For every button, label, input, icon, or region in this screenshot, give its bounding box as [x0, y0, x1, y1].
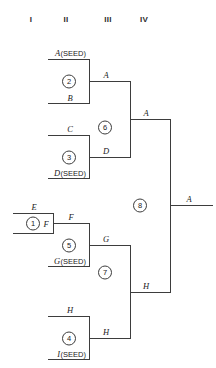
match-4-top-entry-label: H	[66, 305, 74, 315]
match-7-group: 7 H	[99, 246, 172, 339]
match-1-number: 1	[31, 219, 35, 228]
match-4-group: 4 H I(SEED) H	[48, 305, 131, 360]
match-3-bottom-entry-label: D(SEED)	[53, 168, 87, 178]
match-6-winner-label: A	[142, 108, 149, 118]
round-header-ii: II	[63, 15, 68, 24]
champion-label: A	[185, 194, 192, 204]
match-3-number: 3	[67, 153, 71, 162]
match-3-top-entry-label: C	[67, 124, 73, 134]
match-2-group: 2 A(SEED) B A	[48, 48, 131, 104]
match-5-number: 5	[67, 241, 71, 250]
match-8-group: 8 A	[134, 120, 214, 293]
match-4-winner-label: H	[102, 327, 110, 337]
tournament-bracket-figure: I II III IV 2 A(SEED) B A 3 C D(SEED) D	[0, 0, 216, 368]
match-1-group: 1 E F F	[13, 202, 90, 234]
bracket-canvas: I II III IV 2 A(SEED) B A 3 C D(SEED) D	[0, 0, 216, 368]
match-4-bottom-entry-label: I(SEED)	[56, 349, 86, 359]
match-1-top-entry-label: E	[30, 202, 37, 212]
match-3-group: 3 C D(SEED) D	[48, 124, 131, 179]
match-4-number: 4	[67, 334, 71, 343]
match-5-group: 5 G(SEED) G	[48, 224, 131, 267]
round-header-i: I	[30, 15, 33, 24]
match-3-winner-label: D	[102, 146, 110, 156]
round-header-iii: III	[104, 15, 112, 24]
match-5-winner-label: G	[103, 234, 109, 244]
match-1-winner-label: F	[67, 212, 74, 222]
match-2-bottom-entry-label: B	[67, 93, 72, 103]
match-7-number: 7	[103, 268, 107, 277]
match-2-top-entry-label: A(SEED)	[54, 48, 87, 58]
match-1-bottom-entry-label: F	[42, 219, 49, 229]
match-6-number: 6	[103, 123, 107, 132]
match-8-number: 8	[138, 201, 142, 210]
match-6-group: 6 A	[99, 82, 172, 158]
match-2-number: 2	[67, 77, 71, 86]
match-7-winner-label: H	[142, 281, 150, 291]
match-2-winner-label: A	[102, 70, 109, 80]
round-header-iv: IV	[140, 15, 149, 24]
match-5-bottom-entry-label: G(SEED)	[54, 256, 87, 266]
